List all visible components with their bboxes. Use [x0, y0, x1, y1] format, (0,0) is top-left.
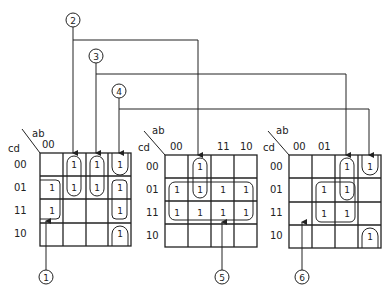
kmap-1: ab cd 00 00 01 11 10 1 1 1 1 1 1 1 1 1 1 — [8, 128, 131, 246]
svg-text:1: 1 — [220, 208, 226, 218]
svg-text:1: 1 — [117, 160, 123, 170]
svg-text:6: 6 — [299, 273, 305, 283]
svg-text:00: 00 — [170, 141, 183, 152]
kmap-3: ab cd 00 01 00 01 11 10 1 1 1 1 1 1 1 — [263, 125, 381, 248]
svg-text:00: 00 — [146, 161, 159, 172]
svg-text:1: 1 — [71, 160, 77, 170]
callout-6: 6 — [295, 222, 309, 284]
svg-text:1: 1 — [94, 160, 100, 170]
svg-text:10: 10 — [270, 230, 283, 241]
svg-text:01: 01 — [270, 184, 283, 195]
svg-text:10: 10 — [240, 141, 253, 152]
callout-2: 2 — [66, 13, 198, 155]
callout-1: 1 — [39, 221, 53, 284]
svg-text:1: 1 — [117, 206, 123, 216]
row-var-label: cd — [263, 142, 275, 153]
svg-text:11: 11 — [14, 205, 27, 216]
svg-text:1: 1 — [49, 183, 55, 193]
svg-text:1: 1 — [344, 162, 350, 172]
kmap-diagram: 2 3 4 ab cd 00 00 01 11 10 1 1 1 — [0, 0, 392, 300]
svg-text:2: 2 — [70, 16, 76, 26]
svg-text:00: 00 — [42, 139, 55, 150]
col-var-label: ab — [32, 128, 44, 139]
callout-3: 3 — [89, 49, 346, 155]
svg-text:1: 1 — [197, 208, 203, 218]
svg-text:1: 1 — [117, 183, 123, 193]
svg-text:10: 10 — [14, 228, 27, 239]
svg-text:11: 11 — [270, 207, 283, 218]
svg-text:01: 01 — [318, 141, 331, 152]
svg-text:1: 1 — [197, 185, 203, 195]
svg-text:1: 1 — [43, 273, 49, 283]
svg-text:4: 4 — [116, 87, 122, 97]
svg-text:1: 1 — [174, 185, 180, 195]
svg-text:1: 1 — [117, 229, 123, 239]
svg-text:1: 1 — [71, 183, 77, 193]
svg-text:00: 00 — [14, 159, 27, 170]
callout-5: 5 — [215, 222, 229, 284]
svg-text:1: 1 — [243, 208, 249, 218]
svg-text:1: 1 — [367, 232, 373, 242]
svg-text:1: 1 — [220, 185, 226, 195]
svg-text:1: 1 — [174, 208, 180, 218]
svg-text:1: 1 — [94, 183, 100, 193]
svg-text:00: 00 — [293, 141, 306, 152]
svg-text:01: 01 — [146, 184, 159, 195]
svg-text:1: 1 — [321, 209, 327, 219]
svg-text:1: 1 — [321, 185, 327, 195]
svg-text:1: 1 — [197, 162, 203, 172]
svg-text:1: 1 — [243, 185, 249, 195]
svg-text:1: 1 — [344, 185, 350, 195]
svg-text:1: 1 — [344, 209, 350, 219]
row-var-label: cd — [8, 143, 20, 154]
svg-text:5: 5 — [219, 273, 225, 283]
svg-text:11: 11 — [146, 207, 159, 218]
svg-text:1: 1 — [367, 162, 373, 172]
svg-text:3: 3 — [93, 52, 99, 62]
svg-text:1: 1 — [49, 206, 55, 216]
svg-text:10: 10 — [146, 230, 159, 241]
col-var-label: ab — [152, 125, 164, 136]
col-var-label: ab — [276, 125, 288, 136]
svg-text:00: 00 — [270, 161, 283, 172]
svg-text:11: 11 — [217, 141, 230, 152]
row-var-label: cd — [138, 142, 150, 153]
svg-text:01: 01 — [14, 182, 27, 193]
